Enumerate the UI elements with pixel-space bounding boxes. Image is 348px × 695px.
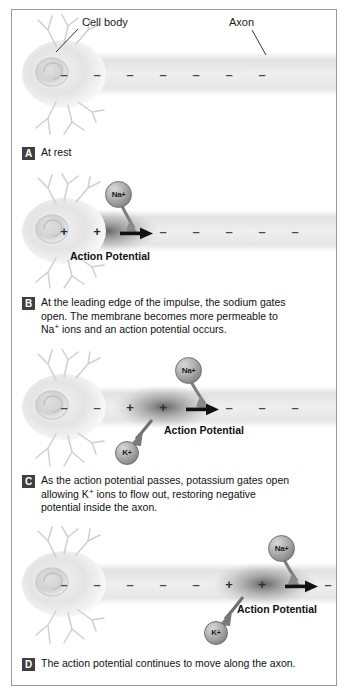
negative-charge-a: – [91,68,103,82]
charge-row-d: –––––++– [58,578,328,592]
positive-charge-c: + [157,401,169,415]
panel-b: Na+ ++––––– Action Potential B At the le… [12,172,336,342]
negative-charge-a: – [256,68,268,82]
caption-b: B At the leading edge of the impulse, th… [22,296,313,337]
propagation-arrow-c [186,402,220,420]
propagation-arrow-b [120,226,154,244]
propagation-arrow-d [285,579,319,597]
caption-d: D The action potential continues to move… [22,657,313,671]
sodium-ion-c: Na+ [175,357,202,384]
negative-charge-b: – [223,225,235,239]
panel-badge-c: C [22,475,35,488]
charge-row-b: ++––––– [58,225,328,239]
caption-text-c: As the action potential passes, potassiu… [41,474,313,515]
caption-text-a: At rest [41,146,313,160]
figure-panel-container: Cell body Axon ––––––– A At rest [11,9,337,686]
sodium-ion-text-b: Na [112,191,122,199]
negative-charge-b: – [190,225,202,239]
cell-body-label: Cell body [82,16,128,28]
panel-badge-d: D [22,658,35,671]
action-potential-label-b: Action Potential [70,250,150,262]
action-potential-label-c: Action Potential [164,424,244,436]
negative-charge-c: – [289,401,301,415]
positive-charge-b: + [58,225,70,239]
potassium-ion-c: K+ [115,441,139,465]
negative-charge-a: – [124,68,136,82]
negative-charge-c: – [223,401,235,415]
negative-charge-a: – [58,68,70,82]
positive-charge-d: + [223,578,235,592]
negative-charge-c: – [91,401,103,415]
sodium-ion-d: Na+ [268,535,295,562]
negative-charge-a: – [223,68,235,82]
caption-c: C As the action potential passes, potass… [22,474,313,515]
negative-charge-a: – [190,68,202,82]
positive-charge-d: + [256,578,268,592]
positive-charge-b: + [91,225,103,239]
negative-charge-d: – [190,578,202,592]
negative-charge-d: – [322,578,334,592]
panel-badge-b: B [22,297,35,310]
panel-a: Cell body Axon ––––––– A At rest [12,10,336,170]
caption-text-d: The action potential continues to move a… [41,657,313,671]
caption-a: A At rest [22,146,313,160]
negative-charge-c: – [256,401,268,415]
negative-charge-b: – [157,225,169,239]
sodium-ion-b: Na+ [105,181,132,208]
negative-charge-b: – [256,225,268,239]
negative-charge-c: – [58,401,70,415]
charge-row-c: ––++––– [58,401,328,415]
negative-charge-d: – [157,578,169,592]
panel-c: Na+ K+ ––++––– Action Potential C As the… [12,346,336,521]
negative-charge-d: – [58,578,70,592]
axon-label: Axon [229,16,254,28]
negative-charge-d: – [91,578,103,592]
charge-row-a: ––––––– [58,68,328,82]
panel-d: Na+ K+ –––––++– Action Potential D The a… [12,525,336,685]
caption-text-b: At the leading edge of the impulse, the … [41,296,313,337]
panel-badge-a: A [22,147,35,160]
negative-charge-d: – [124,578,136,592]
negative-charge-b: – [289,225,301,239]
negative-charge-a: – [157,68,169,82]
positive-charge-c: + [124,401,136,415]
action-potential-label-d: Action Potential [237,603,317,615]
potassium-ion-d: K+ [204,621,228,645]
